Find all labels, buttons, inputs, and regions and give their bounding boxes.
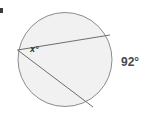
geometry-figure: x° 92° <box>0 0 147 119</box>
arc-measure-label: 92° <box>121 56 139 68</box>
circle-shape <box>18 13 112 107</box>
unknown-angle-label: x° <box>30 45 39 54</box>
